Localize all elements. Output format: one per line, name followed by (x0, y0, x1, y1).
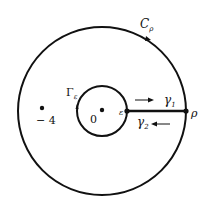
gamma2-arrow-icon (151, 122, 170, 127)
label-rho: ρ (190, 107, 198, 120)
label-gamma-epsilon: Γε (66, 86, 78, 101)
rho-endpoint-dot (183, 108, 188, 113)
minus-four-point (40, 106, 44, 110)
gamma1-arrow-icon (135, 98, 154, 103)
label-gamma2: γ2 (137, 115, 149, 131)
keyhole-contour-diagram: Cρ Γε 0 − 4 ε ρ γ1 γ2 (0, 0, 209, 206)
label-minus-four: − 4 (36, 114, 56, 127)
epsilon-endpoint-dot (124, 108, 129, 113)
outer-orientation-arrow-icon (145, 36, 151, 41)
label-c-rho: Cρ (140, 17, 154, 33)
origin-point (100, 108, 104, 112)
label-gamma1: γ1 (164, 93, 176, 109)
label-origin: 0 (90, 113, 97, 126)
label-epsilon: ε (119, 108, 123, 117)
